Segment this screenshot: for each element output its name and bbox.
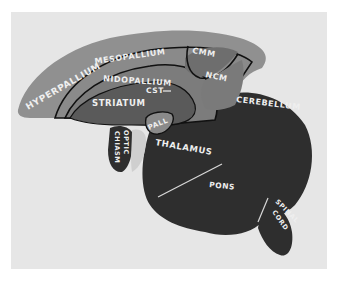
label-optic: OPTIC — [122, 130, 130, 155]
label-striatum: STRIATUM — [92, 98, 146, 108]
brain-diagram: HYPERPALLIUM MESOPALLIUM NIDOPALLIUM CMM… — [0, 0, 337, 281]
label-cst: CST — [146, 86, 164, 95]
label-chiasm: CHIASM — [113, 131, 121, 163]
